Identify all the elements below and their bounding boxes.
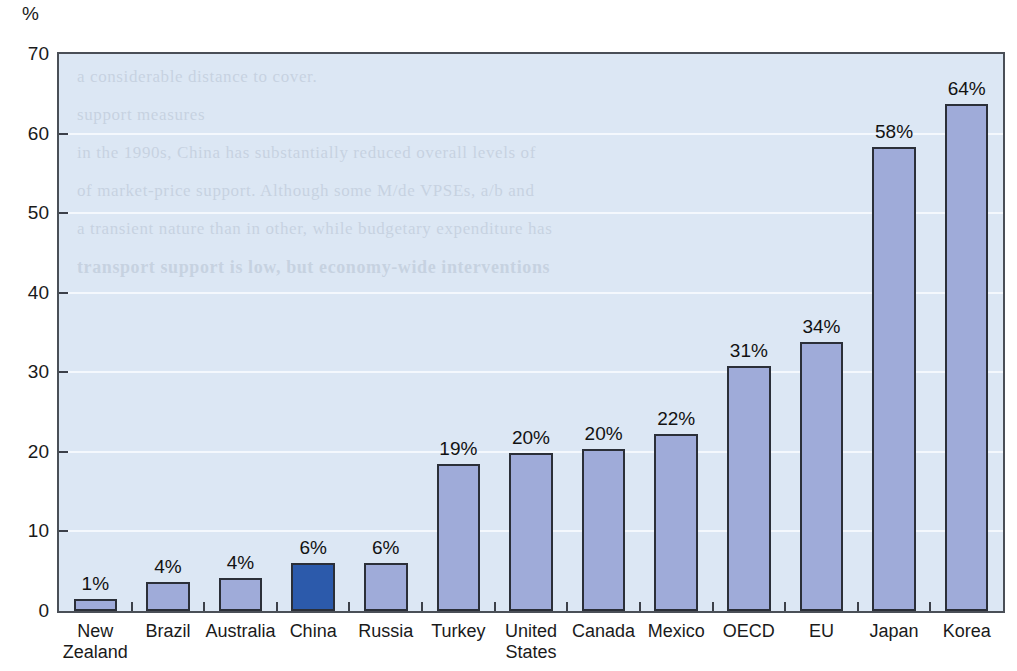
x-axis-tick <box>639 602 641 611</box>
bar-value-label: 6% <box>277 538 350 557</box>
category-label-line: Korea <box>930 621 1003 642</box>
category-label-united-states: UnitedStates <box>495 621 568 663</box>
y-axis-tick-label: 40 <box>5 283 49 302</box>
bar-value-label: 34% <box>785 317 858 336</box>
bar-russia <box>364 563 408 611</box>
y-axis-tick-label: 30 <box>5 362 49 381</box>
x-axis-tick <box>494 602 496 611</box>
x-axis-tick <box>712 602 714 611</box>
bar-oecd <box>727 366 771 611</box>
bar-value-label: 19% <box>422 439 495 458</box>
bar-value-label: 64% <box>930 79 1003 98</box>
gridline <box>59 371 1003 373</box>
y-axis-tick <box>59 530 68 532</box>
bar-chart: % 010203040506070 a considerable distanc… <box>0 0 1017 671</box>
bar-korea <box>945 104 989 611</box>
x-axis-tick <box>203 602 205 611</box>
y-axis-tick <box>59 133 68 135</box>
category-label-line: Turkey <box>422 621 495 642</box>
bar-value-label: 4% <box>204 553 277 572</box>
x-axis-tick <box>421 602 423 611</box>
bar-value-label: 4% <box>132 557 205 576</box>
bar-value-label: 20% <box>567 424 640 443</box>
x-axis-tick <box>784 602 786 611</box>
x-axis-tick <box>131 602 133 611</box>
x-axis-tick <box>566 602 568 611</box>
gridline <box>59 212 1003 214</box>
bar-mexico <box>654 434 698 611</box>
category-label-line: Mexico <box>640 621 713 642</box>
y-axis-tick <box>59 212 68 214</box>
y-axis-tick-label: 20 <box>5 442 49 461</box>
category-label-line: States <box>495 642 568 663</box>
bar-value-label: 20% <box>495 428 568 447</box>
category-label-line: Russia <box>349 621 422 642</box>
y-axis-tick-label: 0 <box>5 601 49 620</box>
x-axis-tick <box>929 602 931 611</box>
x-axis-tick <box>348 602 350 611</box>
y-axis-tick-label: 60 <box>5 124 49 143</box>
category-label-korea: Korea <box>930 621 1003 642</box>
category-label-canada: Canada <box>567 621 640 642</box>
y-axis-tick-label: 50 <box>5 203 49 222</box>
category-label-line: New <box>59 621 132 642</box>
category-label-line: Zealand <box>59 642 132 663</box>
bar-canada <box>582 449 626 611</box>
bar-new-zealand <box>74 599 118 611</box>
x-axis-tick <box>276 602 278 611</box>
bar-value-label: 31% <box>713 341 786 360</box>
category-label-turkey: Turkey <box>422 621 495 642</box>
category-label-line: EU <box>785 621 858 642</box>
bar-china <box>291 563 335 611</box>
category-label-line: China <box>277 621 350 642</box>
gridline <box>59 292 1003 294</box>
category-label-russia: Russia <box>349 621 422 642</box>
category-label-brazil: Brazil <box>132 621 205 642</box>
bar-value-label: 22% <box>640 409 713 428</box>
category-label-china: China <box>277 621 350 642</box>
bar-turkey <box>437 464 481 611</box>
axis-unit-label: % <box>22 4 39 23</box>
y-axis-tick-label: 10 <box>5 521 49 540</box>
y-axis-tick-label: 70 <box>5 44 49 63</box>
bar-value-label: 58% <box>858 122 931 141</box>
category-label-line: OECD <box>713 621 786 642</box>
bar-united-states <box>509 453 553 611</box>
bar-brazil <box>146 582 190 611</box>
category-label-line: Brazil <box>132 621 205 642</box>
category-label-line: Japan <box>858 621 931 642</box>
bar-australia <box>219 578 263 611</box>
category-label-line: Canada <box>567 621 640 642</box>
bar-japan <box>872 147 916 611</box>
category-label-oecd: OECD <box>713 621 786 642</box>
category-label-line: United <box>495 621 568 642</box>
bar-eu <box>800 342 844 611</box>
y-axis-tick <box>59 371 68 373</box>
category-label-mexico: Mexico <box>640 621 713 642</box>
category-label-new-zealand: NewZealand <box>59 621 132 663</box>
bar-value-label: 1% <box>59 574 132 593</box>
category-label-line: Australia <box>204 621 277 642</box>
category-label-japan: Japan <box>858 621 931 642</box>
y-axis-tick <box>59 292 68 294</box>
category-label-eu: EU <box>785 621 858 642</box>
y-axis-tick <box>59 451 68 453</box>
category-label-australia: Australia <box>204 621 277 642</box>
x-axis-tick <box>857 602 859 611</box>
bar-value-label: 6% <box>349 538 422 557</box>
